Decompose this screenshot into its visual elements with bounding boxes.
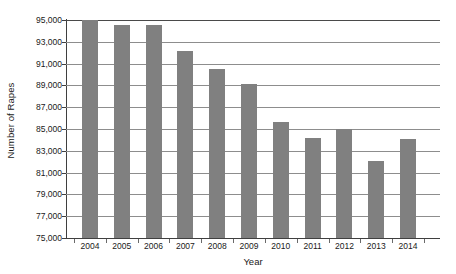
y-axis-tick-label: 83,000 (36, 146, 62, 155)
x-axis-tick-label: 2011 (303, 241, 321, 252)
x-axis-tick-label: 2009 (240, 241, 259, 252)
y-axis-tick-label: 87,000 (36, 103, 62, 112)
y-axis-tick-mark (62, 107, 66, 108)
y-axis-tick-mark (62, 42, 66, 43)
x-axis-tick-label: 2013 (367, 241, 386, 252)
y-axis-tick-label: 81,000 (36, 168, 62, 177)
x-axis-line (66, 238, 440, 239)
bar (368, 161, 384, 238)
x-axis-tick-label: 2006 (144, 241, 163, 252)
y-axis-tick-label: 79,000 (36, 190, 62, 199)
x-axis-tick-label: 2014 (399, 241, 418, 252)
x-axis-tick-label: 2007 (176, 241, 195, 252)
y-axis-tick-mark (62, 129, 66, 130)
y-axis-tick-mark (62, 173, 66, 174)
y-axis-tick-mark (62, 85, 66, 86)
bar (114, 25, 130, 238)
x-axis-tick-label: 2010 (271, 241, 290, 252)
bar (241, 84, 257, 238)
bar (305, 138, 321, 238)
gridline (66, 20, 440, 21)
bar (82, 20, 98, 238)
bar (177, 51, 193, 238)
bar (273, 122, 289, 238)
y-axis-tick-label: 77,000 (36, 212, 62, 221)
y-axis-tick-mark (62, 238, 66, 239)
y-axis-tick-mark (62, 64, 66, 65)
x-axis-tick-label: 2008 (208, 241, 227, 252)
bar (209, 69, 225, 238)
y-axis-tick-label: 89,000 (36, 81, 62, 90)
y-axis-tick-label: 93,000 (36, 37, 62, 46)
y-axis-tick-mark (62, 20, 66, 21)
plot-area (66, 20, 440, 238)
y-axis-tick-label: 85,000 (36, 125, 62, 134)
x-axis-tick-label: 2012 (335, 241, 354, 252)
x-axis-tick-labels: 2004200520062007200820092010201120122013… (66, 241, 440, 255)
bar (146, 25, 162, 238)
y-axis-tick-labels: 75,00077,00079,00081,00083,00085,00087,0… (18, 0, 66, 274)
x-axis-tick-label: 2004 (80, 241, 99, 252)
y-axis-tick-label: 95,000 (36, 16, 62, 25)
y-axis-tick-label: 91,000 (36, 59, 62, 68)
y-axis-title-label: Number of Rapes (6, 82, 17, 158)
bar (400, 139, 416, 238)
y-axis-tick-mark (62, 194, 66, 195)
y-axis-tick-label: 75,000 (36, 234, 62, 243)
x-axis-title: Year (66, 256, 440, 267)
bar-chart: Number of Rapes 75,00077,00079,00081,000… (0, 0, 456, 274)
x-axis-tick-label: 2005 (112, 241, 131, 252)
bar (336, 129, 352, 238)
y-axis-tick-mark (62, 151, 66, 152)
y-axis-tick-mark (62, 216, 66, 217)
